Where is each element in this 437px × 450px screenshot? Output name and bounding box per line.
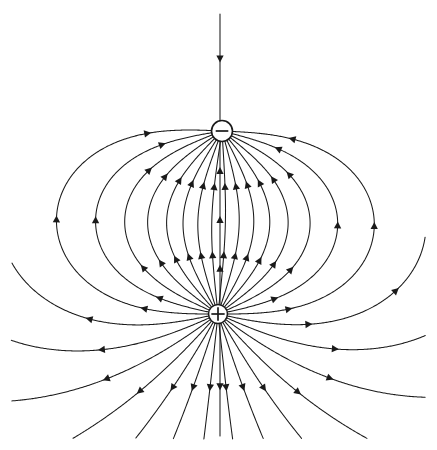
field-arrow — [86, 316, 94, 323]
field-line — [228, 237, 425, 325]
field-arrow — [137, 386, 145, 393]
field-arrow — [210, 183, 217, 190]
field-arrow — [207, 384, 214, 391]
field-arrow — [216, 383, 223, 390]
field-line — [223, 323, 301, 438]
field-arrow — [231, 252, 238, 260]
field-arrow — [171, 383, 178, 391]
field-arrow — [334, 221, 341, 228]
field-line — [228, 131, 374, 314]
field-line — [56, 130, 211, 314]
field-arrow — [199, 182, 206, 190]
field-line — [225, 139, 270, 306]
field-lines-group — [11, 14, 425, 439]
field-arrow — [371, 222, 378, 229]
field-line — [12, 263, 208, 325]
field-line — [96, 133, 212, 312]
field-arrow — [293, 387, 301, 394]
field-arrow — [216, 56, 223, 63]
field-arrow — [159, 260, 166, 268]
field-arrow — [92, 216, 99, 223]
field-arrow — [144, 130, 152, 137]
field-line — [227, 135, 310, 309]
field-line — [125, 135, 213, 310]
field-arrow — [233, 183, 240, 191]
field-arrow — [98, 346, 105, 353]
field-arrow — [222, 384, 229, 391]
field-arrow — [140, 306, 148, 313]
field-arrow — [216, 216, 223, 223]
field-line — [12, 320, 210, 401]
field-arrow — [198, 252, 205, 260]
field-arrow — [53, 215, 60, 222]
field-arrow — [305, 321, 312, 328]
field-line — [136, 323, 213, 438]
field-line — [225, 322, 367, 439]
field-arrow — [209, 251, 216, 258]
field-arrow — [160, 174, 167, 182]
field-arrow — [216, 167, 223, 174]
field-arrow — [269, 261, 276, 269]
field-arrow — [285, 306, 293, 313]
field-arrow — [259, 383, 266, 391]
field-arrow — [271, 176, 278, 184]
field-line — [226, 320, 425, 397]
field-line-canvas — [0, 0, 437, 450]
field-arrow — [220, 251, 227, 258]
dipole-field-figure: − + — [0, 0, 437, 450]
field-line — [228, 134, 338, 312]
field-arrow — [332, 345, 339, 352]
field-arrow — [222, 183, 229, 190]
field-line — [219, 324, 233, 439]
field-line — [223, 140, 254, 305]
field-line — [204, 324, 217, 439]
field-arrow — [175, 177, 182, 185]
field-arrow — [289, 136, 297, 143]
field-line — [73, 322, 211, 439]
